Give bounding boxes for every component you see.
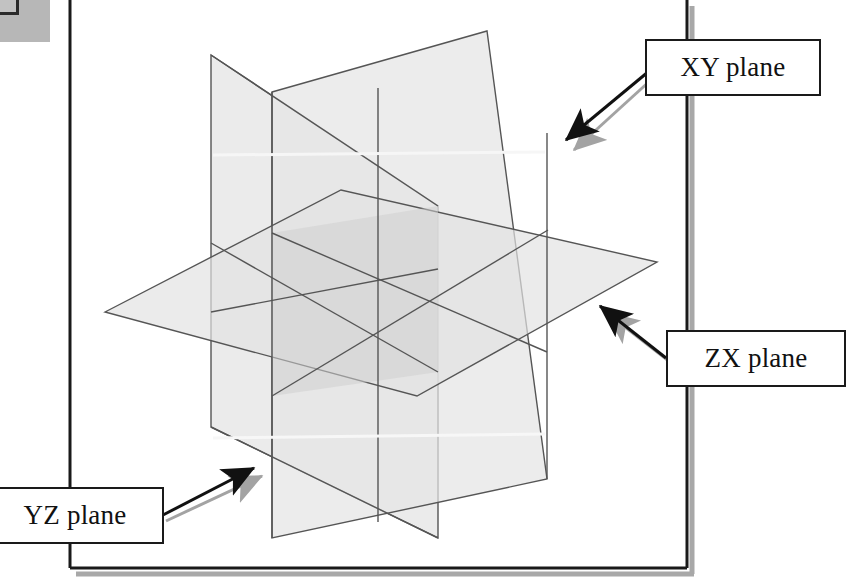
callout-zx-plane-label: ZX plane [705,345,808,372]
callout-xy-plane[interactable]: XY plane [645,39,821,96]
arrow-zx [600,306,670,362]
arrow-yz [163,468,262,521]
figure-canvas: XY plane ZX plane YZ plane [0,0,846,585]
arrow-xy [566,72,652,150]
callout-xy-plane-label: XY plane [681,54,786,81]
callout-yz-plane[interactable]: YZ plane [0,487,164,544]
callout-zx-plane[interactable]: ZX plane [666,330,846,387]
plane-overlap-region [272,206,438,396]
callout-yz-plane-label: YZ plane [24,502,127,529]
